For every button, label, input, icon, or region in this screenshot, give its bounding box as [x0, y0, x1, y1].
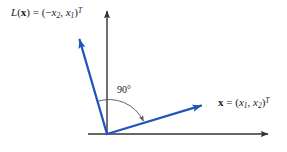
label-original-vector: x = (x1, x2)T: [218, 97, 269, 110]
vector-lx: [80, 40, 107, 134]
label-x-transpose: T: [265, 96, 269, 105]
right-angle-arc: [97, 100, 143, 121]
label-transformed-vector: L(x) = (−x2, x1)T: [11, 7, 82, 20]
label-x-equals: =: [224, 96, 236, 108]
label-lx-equals: =: [30, 6, 42, 18]
vector-diagram-figure: L(x) = (−x2, x1)T x = (x1, x2)T 90°: [0, 0, 287, 152]
vector-x: [107, 106, 201, 134]
diagram-canvas: [0, 0, 287, 152]
label-lx-transpose: T: [78, 6, 82, 15]
label-angle-90: 90°: [117, 85, 131, 95]
